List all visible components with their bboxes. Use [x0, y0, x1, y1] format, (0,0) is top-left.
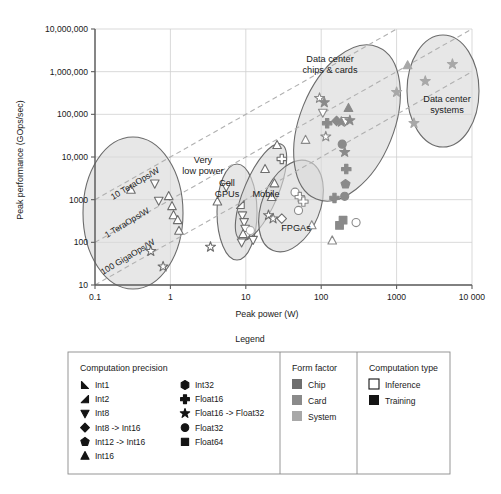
- legend-layer: Computation precisionForm factorComputat…: [68, 352, 450, 474]
- svg-text:low power: low power: [182, 166, 223, 176]
- data-point: [246, 226, 254, 234]
- svg-text:10,000: 10,000: [62, 152, 89, 162]
- legend-swatch-card: [292, 395, 302, 405]
- svg-text:Int2: Int2: [95, 394, 109, 404]
- legend-title: Legend: [235, 334, 264, 344]
- svg-text:systems: systems: [430, 105, 464, 115]
- svg-text:Chip: Chip: [308, 380, 326, 390]
- svg-text:Cell: Cell: [219, 178, 235, 188]
- svg-text:Form factor: Form factor: [292, 363, 337, 373]
- svg-text:100: 100: [314, 292, 329, 302]
- svg-text:1: 1: [168, 292, 173, 302]
- data-point: [341, 192, 349, 200]
- svg-text:1000: 1000: [69, 195, 88, 205]
- y-axis-title: Peak performance (GOps/sec): [15, 100, 25, 219]
- legend-marker-float16-float32: [180, 408, 189, 417]
- scatter-plot-svg: Verylow powerCellGPUsMobileFPGAsData cen…: [0, 0, 501, 494]
- svg-text:Int8 -> Int16: Int8 -> Int16: [95, 423, 141, 433]
- svg-text:10 000: 10 000: [459, 292, 486, 302]
- svg-text:100: 100: [74, 237, 89, 247]
- data-point: [352, 219, 360, 227]
- legend-marker-float64: [181, 438, 188, 445]
- svg-text:Int16: Int16: [95, 451, 114, 461]
- svg-text:Int32: Int32: [195, 380, 214, 390]
- legend-marker-float32: [181, 424, 189, 432]
- legend-marker-int8-int16: [81, 423, 90, 432]
- svg-text:Computation precision: Computation precision: [80, 363, 168, 373]
- svg-text:Data center: Data center: [423, 94, 471, 104]
- svg-text:Float64: Float64: [195, 437, 224, 447]
- legend-marker-int2: [81, 395, 88, 402]
- svg-text:Mobile: Mobile: [252, 189, 279, 199]
- svg-text:10: 10: [78, 280, 88, 290]
- svg-text:Int12 -> Int16: Int12 -> Int16: [95, 437, 146, 447]
- legend-marker-int8: [81, 410, 89, 418]
- legend-marker-int32: [181, 381, 189, 390]
- svg-text:Float16: Float16: [195, 394, 224, 404]
- legend-marker-int12-int16: [81, 437, 89, 445]
- legend-swatch-chip: [292, 379, 302, 389]
- svg-text:10: 10: [241, 292, 251, 302]
- peak-power-vs-performance-figure: Verylow powerCellGPUsMobileFPGAsData cen…: [0, 0, 501, 494]
- svg-text:Data center: Data center: [306, 54, 354, 64]
- svg-text:GPUs: GPUs: [215, 189, 240, 199]
- x-axis-title: Peak power (W): [235, 309, 298, 319]
- svg-text:Card: Card: [308, 396, 327, 406]
- svg-text:Int8: Int8: [95, 408, 109, 418]
- svg-text:0.1: 0.1: [89, 292, 101, 302]
- svg-text:Float16 -> Float32: Float16 -> Float32: [195, 408, 264, 418]
- data-point: [294, 206, 302, 214]
- svg-text:1,000,000: 1,000,000: [50, 67, 88, 77]
- data-point: [336, 222, 344, 230]
- svg-text:Inference: Inference: [385, 380, 421, 390]
- legend-marker-int16: [81, 452, 89, 460]
- legend-swatch-system: [292, 411, 302, 421]
- legend-marker-int1: [81, 381, 88, 388]
- svg-text:Training: Training: [385, 396, 416, 406]
- svg-text:Int1: Int1: [95, 380, 109, 390]
- svg-text:100,000: 100,000: [57, 109, 88, 119]
- svg-text:FPGAs: FPGAs: [281, 223, 311, 233]
- svg-text:Float32: Float32: [195, 423, 224, 433]
- legend-marker-float16: [181, 395, 190, 404]
- legend-swatch-training: [369, 395, 379, 405]
- svg-text:System: System: [308, 412, 336, 422]
- svg-text:10,000,000: 10,000,000: [45, 24, 88, 34]
- svg-text:Very: Very: [194, 155, 213, 165]
- legend-swatch-inference: [369, 379, 379, 389]
- svg-text:chips & cards: chips & cards: [302, 65, 358, 75]
- svg-text:Computation type: Computation type: [369, 363, 438, 373]
- svg-text:1000: 1000: [387, 292, 406, 302]
